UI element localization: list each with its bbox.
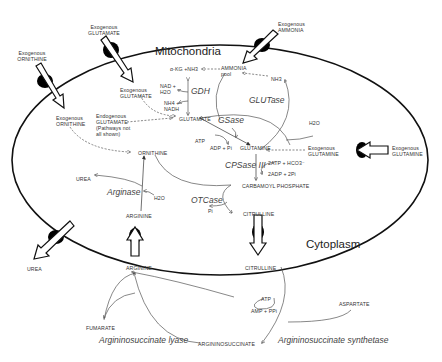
arginine-cyto: ARGININE [126, 265, 152, 271]
exo-ornithine-label: ExogenousORNITHINE [17, 50, 46, 62]
argininosuccinate: ARGININOSUCCINATE [198, 341, 255, 347]
adp-pi: ADP + Pi [210, 145, 232, 151]
carbamoyl-phosphate: CARBAMOYL PHOSPHATE [242, 183, 309, 189]
exo-glutamine-label: ExogenousGLUTAMINE [392, 145, 423, 157]
exo-glutamate-inner: ExogenousGLUTAMATE [120, 87, 152, 99]
glutamine: GLUTAMINE [240, 145, 271, 151]
cytoplasm-title: Cytoplasm [306, 238, 360, 250]
enzyme-gsase: GSase [218, 115, 244, 125]
urea-mito: UREA [76, 176, 91, 182]
pathway-diagram [0, 0, 442, 362]
arginine-mito: ARGININE [126, 213, 152, 219]
exo-ornithine-inner: ExogenousORNITHINE [56, 115, 85, 127]
endogenous-glutamate: EndogenousGLUTAMATE(Pathways notall show… [96, 113, 130, 137]
enzyme-glutase: GLUTase [249, 95, 285, 105]
pi: Pi [208, 208, 213, 214]
ammonia-pool: AMMONIApool [221, 65, 247, 77]
atp-hco3: 2ATP + HCO3⁻ [268, 160, 305, 166]
mitochondrial-membrane [12, 45, 428, 275]
enzyme-gdh: GDH [191, 86, 210, 96]
nad-h2o: NAD +H2O [160, 83, 176, 95]
nh4-nadh: NH4 +NADH [164, 100, 179, 112]
exo-glutamine-inner: ExogenousGLUTAMINE [308, 145, 339, 157]
citrulline-cyto: CITRULLINE [245, 265, 276, 271]
h2o-glutase: H2O [309, 120, 320, 126]
enzyme-arginase: Arginase [107, 187, 141, 197]
glutamate: GLUTAMATE [179, 116, 211, 122]
enzyme-as-synthetase: Argininosuccinate synthetase [278, 335, 389, 345]
amp-ppi: AMP + PPi [251, 308, 277, 314]
adp-pi-2: 2ADP + 2Pi [268, 171, 296, 177]
atp: ATP [195, 138, 205, 144]
ornithine: ORNITHINE [138, 150, 167, 156]
akg-nh3: α-KG +NH3 [170, 66, 198, 72]
fumarate: FUMARATE [86, 325, 115, 331]
urea-out-label: UREA [27, 266, 42, 272]
nh3: NH3 [271, 76, 282, 82]
atp-cyto: ATP [261, 296, 271, 302]
mitochondria-title: Mitochondria [155, 45, 221, 57]
exo-ammonia-label: ExogenousAMMONIA [278, 21, 305, 33]
h2o-arginase: H2O [154, 195, 165, 201]
aspartate: ASPARTATE [339, 301, 370, 307]
exo-glutamate-label: ExogenousGLUTAMATE [88, 24, 120, 36]
enzyme-as-lyase: Argininosuccinate lyase [99, 335, 188, 345]
enzyme-cpsase: CPSase III [225, 160, 266, 170]
enzyme-otcase: OTCase [191, 195, 223, 205]
citrulline-mito: CITRULLINE [243, 211, 274, 217]
